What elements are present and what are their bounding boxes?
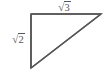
left-leg-label: √2 bbox=[11, 33, 25, 46]
hypotenuse bbox=[31, 14, 101, 68]
radicand-top: 3 bbox=[64, 1, 71, 14]
radical-expression-left: √2 bbox=[11, 33, 25, 46]
triangle-figure: √3 √2 bbox=[0, 0, 110, 80]
top-leg-label: √3 bbox=[57, 1, 71, 14]
radical-expression-top: √3 bbox=[57, 1, 71, 14]
radicand-left: 2 bbox=[18, 33, 25, 46]
